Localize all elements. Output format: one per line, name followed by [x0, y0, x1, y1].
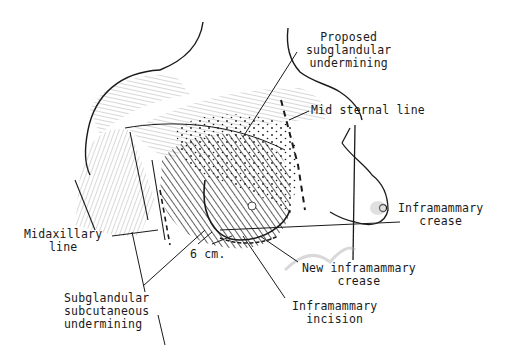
label-new-inframammary-crease: New inframammary crease: [302, 262, 416, 288]
label-line: undermining: [306, 57, 391, 70]
label-line: undermining: [64, 318, 149, 331]
arm-muscle: [75, 129, 155, 236]
label-line: line: [24, 241, 102, 254]
label-line: Mid sternal line: [311, 104, 425, 117]
label-line: crease: [302, 275, 416, 288]
label-line: 6 cm.: [190, 248, 226, 261]
label-line: crease: [398, 215, 483, 228]
right-breast: [330, 125, 388, 260]
label-inframammary-incision: Inframammary incision: [292, 300, 377, 326]
nipple: [248, 202, 256, 210]
surgical-illustration: Proposed subglandular undermining Mid st…: [0, 0, 522, 360]
label-proposed-subglandular-undermining: Proposed subglandular undermining: [306, 31, 391, 70]
label-inframammary-crease: Inframammary crease: [398, 202, 483, 228]
label-midsternal-line: Mid sternal line: [311, 104, 425, 117]
label-midaxillary-line: Midaxillary line: [24, 228, 102, 254]
label-6cm: 6 cm.: [190, 248, 226, 261]
label-line: incision: [292, 313, 377, 326]
label-subglandular-subcutaneous-undermining: Subglandular subcutaneous undermining: [64, 292, 149, 331]
